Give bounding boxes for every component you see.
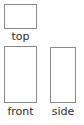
orthographic-views-diagram: top front side bbox=[0, 0, 84, 125]
view-side: side bbox=[50, 47, 76, 118]
side-view-rectangle bbox=[50, 47, 76, 103]
view-front: front bbox=[4, 46, 37, 118]
top-view-label: top bbox=[4, 31, 37, 43]
top-view-rectangle bbox=[4, 4, 37, 29]
front-view-rectangle bbox=[4, 46, 37, 103]
side-view-label: side bbox=[50, 106, 76, 118]
front-view-label: front bbox=[4, 106, 37, 118]
view-top: top bbox=[4, 4, 37, 43]
